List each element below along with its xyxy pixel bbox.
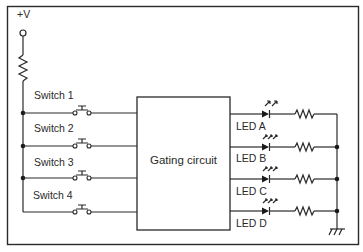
resistor-icon xyxy=(295,207,314,215)
switch-2-label: Switch 2 xyxy=(34,122,74,134)
light-emission-icon xyxy=(263,135,277,139)
led-icon xyxy=(262,176,269,183)
resistor-icon xyxy=(295,110,314,118)
switch-3-label: Switch 3 xyxy=(34,156,74,168)
led-c-label: LED C xyxy=(236,185,267,197)
pushbutton-icon xyxy=(76,171,88,175)
switch-3: Switch 3 xyxy=(23,156,137,180)
led-a-branch: LED A xyxy=(230,101,337,132)
resistor-icon xyxy=(295,175,314,183)
supply-terminal-icon xyxy=(20,30,26,36)
led-icon xyxy=(262,144,269,151)
switch-4: Switch 4 xyxy=(23,189,137,214)
pushbutton-icon xyxy=(76,139,88,143)
switch-4-label: Switch 4 xyxy=(33,189,73,201)
led-icon xyxy=(262,208,269,215)
led-b-label: LED B xyxy=(236,152,266,164)
switch-1-label: Switch 1 xyxy=(34,89,74,101)
junction-dot xyxy=(335,209,340,214)
switch-2: Switch 2 xyxy=(23,122,137,148)
circuit-diagram: +V Switch 1 Switch 2 Switch 3 Switch 4 xyxy=(0,0,363,252)
gating-circuit-label: Gating circuit xyxy=(150,154,218,166)
pushbutton-icon xyxy=(76,205,88,209)
led-c-branch: LED C xyxy=(230,167,337,197)
pushbutton-icon xyxy=(76,106,88,110)
led-d-label: LED D xyxy=(236,217,267,229)
junction-dot xyxy=(335,145,340,150)
led-b-branch: LED B xyxy=(230,135,337,164)
light-emission-icon xyxy=(263,167,277,171)
light-emission-icon xyxy=(263,199,277,203)
switch-1: Switch 1 xyxy=(23,89,137,115)
junction-dot xyxy=(335,177,340,182)
ground-icon xyxy=(329,229,345,235)
pullup-resistor-icon xyxy=(19,55,27,81)
led-icon xyxy=(262,111,269,118)
supply-label: +V xyxy=(17,8,30,20)
led-d-branch: LED D xyxy=(230,199,337,229)
led-a-label: LED A xyxy=(236,120,266,132)
resistor-icon xyxy=(295,143,314,151)
light-emission-icon xyxy=(265,101,277,106)
